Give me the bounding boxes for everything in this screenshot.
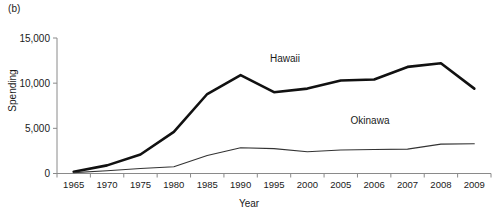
y-axis: 05,00010,00015,000: [19, 33, 57, 180]
x-axis-title: Year: [0, 198, 498, 209]
y-tick-label: 15,000: [19, 33, 50, 44]
x-tick-label: 2000: [297, 179, 318, 190]
y-tick-label: 10,000: [19, 78, 50, 89]
line-chart: 05,00010,00015,000 196519701975198019851…: [0, 0, 498, 218]
y-tick-label: 0: [44, 168, 50, 179]
x-tick-label: 1985: [197, 179, 218, 190]
x-tick-label: 2005: [330, 179, 351, 190]
series-line-okinawa: [74, 144, 475, 173]
figure-panel: (b) Spending Year 05,00010,00015,000 196…: [0, 0, 498, 218]
x-tick-label: 1975: [130, 179, 151, 190]
x-tick-label: 1990: [230, 179, 251, 190]
x-tick-label: 1970: [97, 179, 118, 190]
x-axis: 1965197019751980198519901995200020052006…: [57, 174, 491, 190]
x-tick-label: 1995: [263, 179, 284, 190]
x-tick-label: 1980: [163, 179, 184, 190]
panel-label: (b): [8, 3, 21, 14]
series-annotation: Okinawa: [351, 115, 390, 126]
series-lines: [74, 63, 475, 172]
x-tick-label: 2008: [430, 179, 451, 190]
y-tick-label: 5,000: [25, 123, 50, 134]
series-annotation: Hawaii: [270, 53, 300, 64]
series-line-hawaii: [74, 63, 475, 171]
x-tick-label: 1965: [63, 179, 84, 190]
x-tick-label: 2006: [364, 179, 385, 190]
x-tick-label: 2009: [464, 179, 485, 190]
y-axis-title: Spending: [7, 56, 18, 126]
x-tick-label: 2007: [397, 179, 418, 190]
